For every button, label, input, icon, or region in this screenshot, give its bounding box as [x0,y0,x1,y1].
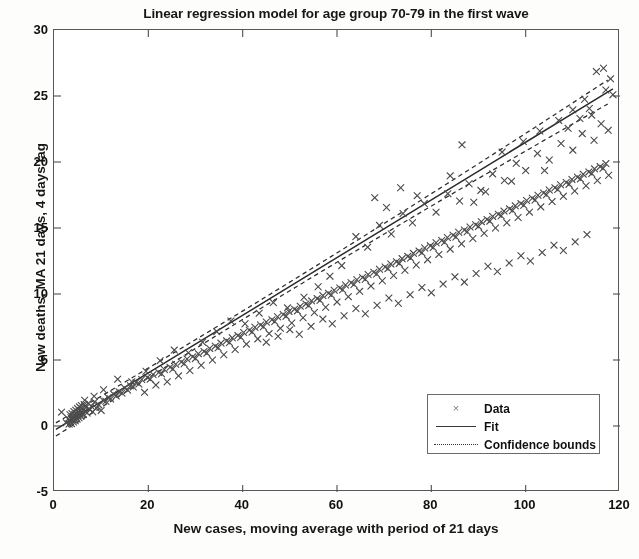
x-axis-tick-labels: 020406080100120 [0,497,639,517]
x-tick-label-0: 0 [23,497,83,512]
data-point-marker [175,373,181,379]
data-point-marker [419,284,425,290]
data-point-marker [471,199,477,205]
data-point-marker [221,352,227,358]
data-point-marker [386,295,392,301]
data-point-marker [315,284,321,290]
data-point-marker [572,239,578,245]
data-point-marker [482,189,488,195]
data-point-marker [549,199,555,205]
data-point-marker [584,232,590,238]
data-point-marker [527,258,533,264]
data-point-marker [572,188,578,194]
legend-label-fit: Fit [484,420,499,434]
data-point-marker [539,249,545,255]
data-point-marker [409,220,415,226]
data-point-marker [494,268,500,274]
legend-box: × Data Fit Confidence bounds [427,394,600,454]
data-point-marker [383,204,389,210]
data-point-marker [263,339,269,345]
data-point-marker [424,257,430,263]
data-point-marker [289,320,295,326]
data-point-marker [157,358,163,364]
data-point-marker [242,321,248,327]
data-point-marker [433,209,439,215]
data-point-marker [368,283,374,289]
data-point-marker [582,96,588,102]
fit-line [56,89,613,430]
data-point-marker [402,267,408,273]
data-point-marker [541,167,547,173]
y-axis-label: New deaths, MA 21 days, 4 days lag [33,78,48,438]
data-point-marker [470,235,476,241]
data-point-marker [570,147,576,153]
data-point-marker [345,294,351,300]
data-point-marker [391,272,397,278]
data-point-marker [605,127,611,133]
data-point-marker [447,173,453,179]
data-point-marker [506,260,512,266]
data-point-marker [100,387,106,393]
x-tick-label-4: 80 [400,497,460,512]
data-point-marker [492,225,498,231]
data-point-marker [452,274,458,280]
data-point-marker [320,316,326,322]
data-point-marker [586,105,592,111]
data-point-marker [301,294,307,300]
data-point-marker [577,115,583,121]
data-point-marker [153,382,159,388]
data-point-marker [551,242,557,248]
data-point-marker [600,65,606,71]
data-point-marker [593,68,599,74]
data-point-marker [141,389,147,395]
data-point-marker [501,177,507,183]
data-point-marker [428,290,434,296]
data-point-marker [256,310,262,316]
data-point-marker [185,350,191,356]
chart-canvas: Linear regression model for age group 70… [0,0,639,559]
data-point-marker [546,157,552,163]
chart-title: Linear regression model for age group 70… [53,6,619,21]
data-point-marker [607,76,613,82]
data-point-marker [91,393,97,399]
y-tick-label-7: 30 [4,22,48,37]
legend-label-data: Data [484,402,510,416]
data-point-marker [413,262,419,268]
legend-item-confidence-bounds: Confidence bounds [428,436,599,453]
data-point-marker [436,251,442,257]
data-point-marker [308,323,314,329]
data-point-marker [296,331,302,337]
legend-label-confidence-bounds: Confidence bounds [484,438,596,452]
data-point-marker [523,167,529,173]
data-point-marker [481,230,487,236]
data-point-marker [485,263,491,269]
data-point-marker [560,247,566,253]
data-point-marker [329,321,335,327]
data-point-marker [334,299,340,305]
data-point-marker [300,315,306,321]
legend-marker-solid-line-icon [428,418,484,435]
data-point-marker [499,149,505,155]
data-point-marker [603,87,609,93]
data-point-marker [518,253,524,259]
data-point-marker [515,214,521,220]
data-point-marker [353,305,359,311]
legend-marker-dashed-line-icon [428,436,484,453]
data-point-marker [598,121,604,127]
data-point-marker [277,325,283,331]
data-point-marker [560,193,566,199]
data-point-marker [357,288,363,294]
data-point-marker [490,171,496,177]
data-point-marker [388,231,394,237]
data-point-marker [447,246,453,252]
data-point-marker [379,278,385,284]
data-point-marker [353,233,359,239]
data-point-marker [594,177,600,183]
data-point-marker [526,209,532,215]
data-point-marker [478,187,484,193]
data-point-marker [466,181,472,187]
data-point-marker [513,160,519,166]
data-point-marker [327,273,333,279]
data-point-marker [374,302,380,308]
data-point-marker [372,195,378,201]
